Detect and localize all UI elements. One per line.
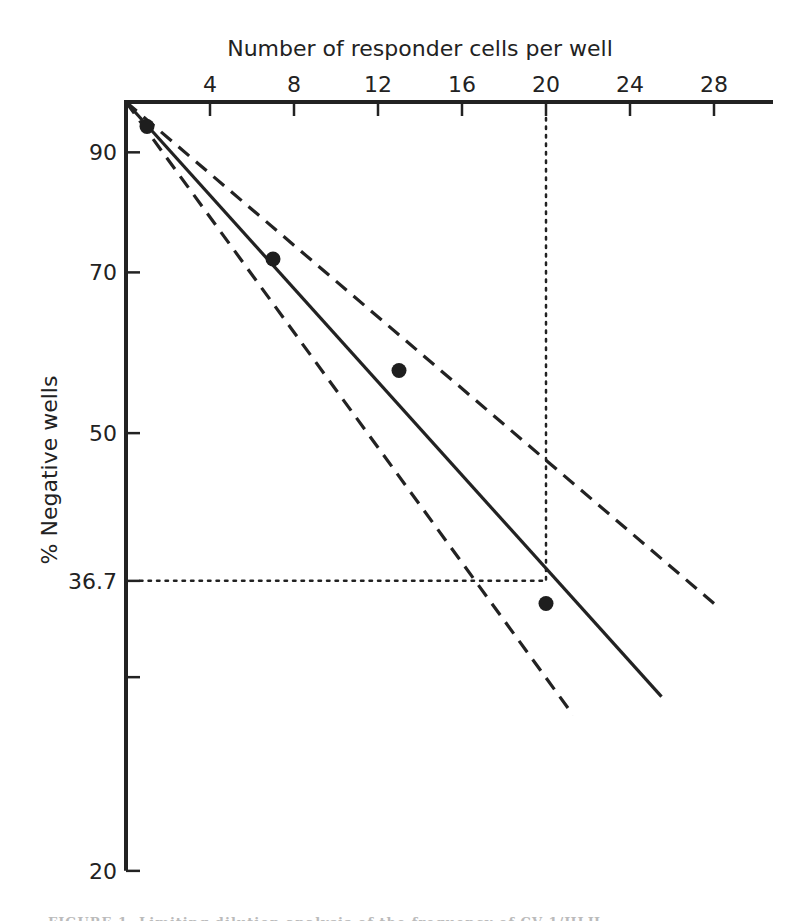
y-tick-label: 70 xyxy=(89,260,117,285)
figure-caption: FIGURE 1. Limiting dilution analysis of … xyxy=(48,913,748,921)
data-points xyxy=(140,119,554,611)
x-tick-label: 16 xyxy=(448,72,476,97)
y-tick-labels: 90705036.720 xyxy=(68,140,117,884)
x-tick-label: 20 xyxy=(532,72,560,97)
x-axis-title: Number of responder cells per well xyxy=(227,36,613,61)
y-tick-label: 50 xyxy=(89,421,117,446)
x-tick-labels: 481216202428 xyxy=(203,72,728,97)
confidence-limit-line xyxy=(126,102,573,715)
regression-line xyxy=(126,102,662,697)
data-point xyxy=(140,119,155,134)
data-point xyxy=(266,251,281,266)
limiting-dilution-chart: Number of responder cells per well 48121… xyxy=(0,0,808,921)
y-tick-label: 36.7 xyxy=(68,569,117,594)
x-tick-label: 12 xyxy=(364,72,392,97)
x-tick-label: 8 xyxy=(287,72,301,97)
axes xyxy=(124,100,773,871)
x-tick-label: 24 xyxy=(616,72,644,97)
y-tick-label: 20 xyxy=(89,859,117,884)
data-point xyxy=(392,363,407,378)
data-point xyxy=(539,596,554,611)
x-tick-label: 28 xyxy=(700,72,728,97)
x-tick-label: 4 xyxy=(203,72,217,97)
y-tick-label: 90 xyxy=(89,140,117,165)
fit-lines xyxy=(126,102,714,715)
confidence-limit-line xyxy=(126,102,714,604)
y-axis-title: % Negative wells xyxy=(37,376,62,565)
